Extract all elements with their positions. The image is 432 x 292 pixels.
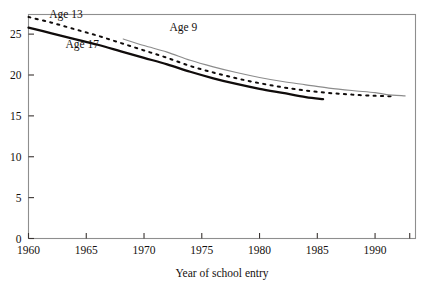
chart-page: 05101520251960196519701975198019851990 A… <box>0 0 432 292</box>
y-tick-label: 10 <box>10 151 22 163</box>
y-tick-label: 25 <box>10 28 22 40</box>
x-tick-label: 1985 <box>306 244 329 256</box>
y-tick-label: 5 <box>16 192 22 204</box>
x-tick-label: 1970 <box>133 244 156 256</box>
series-label-age-13: Age 13 <box>49 8 83 21</box>
x-tick-label: 1980 <box>248 244 271 256</box>
y-tick-label: 20 <box>10 69 22 81</box>
x-tick-label: 1965 <box>75 244 98 256</box>
x-axis-title: Year of school entry <box>175 267 268 280</box>
line-chart: 05101520251960196519701975198019851990 A… <box>0 0 432 292</box>
series-label-age-17: Age 17 <box>65 38 99 51</box>
x-tick-label: 1990 <box>364 244 387 256</box>
x-tick-label: 1975 <box>190 244 213 256</box>
y-tick-label: 15 <box>10 110 22 122</box>
series-label-age-9: Age 9 <box>169 21 197 34</box>
x-tick-label: 1960 <box>17 244 40 256</box>
